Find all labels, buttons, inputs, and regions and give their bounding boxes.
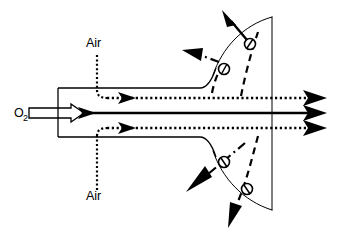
- oxygen-label-subscript: 2: [23, 113, 28, 123]
- air-label-top: Air: [86, 36, 101, 50]
- air-label-bottom: Air: [86, 189, 101, 203]
- diagram-canvas: O 2 Air Air: [0, 0, 337, 236]
- burner-diagram-figure: O 2 Air Air: [0, 0, 337, 236]
